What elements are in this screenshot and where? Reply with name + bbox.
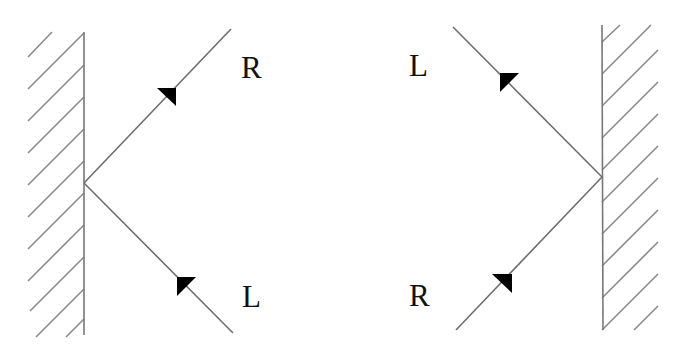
left-outgoing-ray xyxy=(84,29,231,183)
left-panel-label-l: L xyxy=(242,281,261,312)
reflection-diagram xyxy=(0,0,688,360)
left-panel xyxy=(28,29,233,337)
left-wall-hatching xyxy=(28,32,84,337)
right-panel xyxy=(453,25,658,330)
right-incoming-ray xyxy=(456,177,602,330)
right-panel-label-r: R xyxy=(409,280,430,311)
right-panel-label-l: L xyxy=(409,50,428,81)
right-wall-hatching xyxy=(602,25,658,330)
arrow-up-left-icon xyxy=(500,73,519,92)
left-incoming-ray xyxy=(84,183,233,333)
left-panel-label-r: R xyxy=(241,52,262,83)
right-outgoing-ray xyxy=(453,27,602,177)
